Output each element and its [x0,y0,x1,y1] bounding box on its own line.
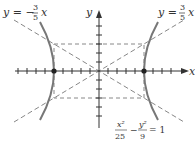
x-axis [15,68,189,74]
hyperbola-equation: x² 25 − y² 9 = 1 [115,120,165,141]
asymptote-label-positive: y = 3 5 x [157,3,195,22]
svg-text:3: 3 [180,3,185,12]
svg-text:y =: y = [157,6,177,19]
hyperbola-diagram: x y y = − 3 5 x y = 3 5 x x² 25 − y² 9 =… [0,0,195,143]
svg-text:9: 9 [140,132,145,141]
y-axis [96,10,102,128]
y-axis-label: y [85,6,93,19]
vertex-left [51,68,56,73]
svg-text:5: 5 [33,13,38,22]
svg-text:3: 3 [33,3,38,12]
y-axis-arrow-icon [96,10,102,18]
svg-text:x²: x² [117,120,125,129]
svg-text:y²: y² [138,120,147,129]
svg-text:x: x [188,6,195,19]
svg-text:−: − [130,125,138,135]
svg-text:5: 5 [180,13,185,22]
asymptote-label-negative: y = − 3 5 x [2,3,48,22]
svg-text:x: x [41,6,48,19]
svg-text:25: 25 [115,132,125,141]
x-axis-label: x [189,65,195,78]
svg-text:y = −: y = − [2,6,35,19]
x-axis-arrow-icon [181,68,189,74]
vertex-right [141,68,146,73]
svg-text:= 1: = 1 [149,125,165,135]
